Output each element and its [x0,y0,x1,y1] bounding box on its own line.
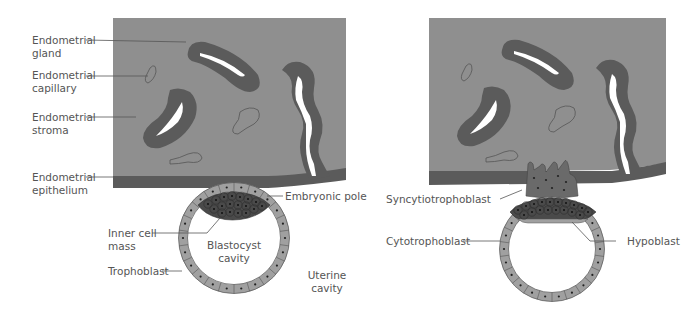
nucleus [579,214,581,216]
nucleus [565,202,567,204]
nucleus [254,191,256,193]
nucleus [597,234,599,236]
nucleus [565,181,567,183]
nucleus [276,264,278,266]
implantation-diagram: Endometrialgland Endometrialcapillary En… [0,0,700,317]
nucleus [229,211,231,213]
nucleus [557,201,559,203]
nucleus [237,204,239,206]
nucleus [200,198,202,200]
nucleus [539,209,541,211]
nucleus [591,222,593,224]
nucleus [237,212,239,214]
nucleus [597,261,599,263]
nucleus [582,284,584,286]
label-trophoblast: Trophoblast [107,265,169,277]
nucleus [215,199,217,201]
nucleus [282,251,284,253]
nucleus [523,214,525,216]
left-panel: Endometrialgland Endometrialcapillary En… [32,18,367,294]
nucleus [239,196,241,198]
nucleus [221,205,223,207]
nucleus [245,205,247,207]
nucleus [213,208,215,210]
nucleus [226,287,228,289]
nucleus [511,222,513,224]
nucleus [284,237,286,239]
nucleus [549,201,551,203]
nucleus [555,209,557,211]
nucleus [544,295,546,297]
nucleus [200,275,202,277]
nucleus [551,187,553,189]
blastocyst [179,183,290,294]
nucleus [245,212,247,214]
nucleus [531,292,533,294]
nucleus [190,209,192,211]
label-uterine-cavity: Uterinecavity [308,269,347,294]
nucleus [571,292,573,294]
nucleus [240,287,242,289]
label-endometrial-capillary: Endometrialcapillary [32,69,96,94]
nucleus [519,284,521,286]
nucleus [184,251,186,253]
nucleus [190,264,192,266]
nucleus [276,209,278,211]
nucleus [266,198,268,200]
nucleus [221,212,223,214]
nucleus [247,198,249,200]
label-endometrial-gland: Endometrialgland [32,34,96,59]
nucleus [212,283,214,285]
label-endometrial-stroma: Endometrialstroma [32,111,96,136]
label-hypoblast: Hypoblast [627,235,680,247]
nucleus [547,209,549,211]
nucleus [573,204,575,206]
label-embryonic-pole: Embryonic pole [285,190,367,202]
label-endometrial-epithelium: Endometrialepithelium [32,171,96,196]
nucleus [563,209,565,211]
nucleus [541,201,543,203]
nucleus [517,209,519,211]
nucleus [533,177,535,179]
nucleus [231,195,233,197]
nucleus [282,223,284,225]
label-syncytiotrophoblast: Syncytiotrophoblast [386,193,491,205]
nucleus [207,203,209,205]
nucleus [558,295,560,297]
label-cytotrophoblast: Cytotrophoblast [386,235,470,247]
nucleus [240,186,242,188]
nucleus [229,203,231,205]
nucleus [253,208,255,210]
nucleus [184,223,186,225]
nucleus [505,234,507,236]
nucleus [591,274,593,276]
nucleus [261,205,263,207]
hypoblast [518,219,588,223]
nucleus [266,275,268,277]
nucleus [581,207,583,209]
nucleus [587,211,589,213]
nucleus [212,191,214,193]
nucleus [537,187,539,189]
nucleus [531,211,533,213]
nucleus [545,179,547,181]
nucleus [525,205,527,207]
nucleus [557,175,559,177]
nucleus [571,211,573,213]
nucleus [226,186,228,188]
nucleus [503,248,505,250]
nucleus [182,237,184,239]
right-panel: Syncytiotrophoblast Cytotrophoblast Hypo… [386,18,680,302]
label-inner-cell-mass: Inner cellmass [108,227,157,252]
blastocyst [500,197,605,302]
nucleus [599,248,601,250]
nucleus [563,189,565,191]
nucleus [511,274,513,276]
nucleus [255,201,257,203]
nucleus [533,203,535,205]
nucleus [254,283,256,285]
nucleus [505,261,507,263]
nucleus [223,196,225,198]
